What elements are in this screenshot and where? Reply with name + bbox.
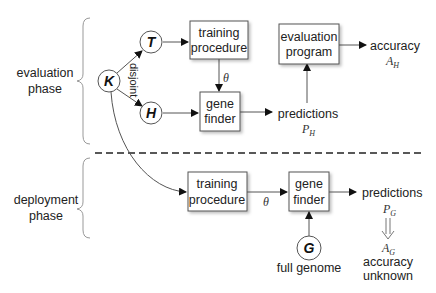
eval-accuracy-symbol: AH <box>385 54 400 70</box>
full-genome-label: full genome <box>277 261 342 275</box>
evaluation-program-line2: program <box>286 45 333 59</box>
node-g: G <box>297 236 321 260</box>
deploy-predictions-label: predictions <box>362 186 422 200</box>
eval-gene-finder-box: gene finder <box>200 92 240 131</box>
deploy-predictions: predictions PG <box>362 186 422 218</box>
evaluation-phase-label: evaluation phase <box>17 66 74 96</box>
deploy-gene-finder-box: gene finder <box>289 172 329 211</box>
node-h-label: H <box>146 105 157 121</box>
node-h: H <box>140 102 162 124</box>
deploy-predictions-symbol: PG <box>382 202 396 218</box>
deploy-genefinder-line1: gene <box>295 177 323 191</box>
evaluation-program-box: evaluation program <box>279 24 339 64</box>
deployment-phase-line1: deployment <box>14 193 79 207</box>
disjoint-label: disjoint <box>128 63 140 97</box>
deploy-training-line2: procedure <box>189 193 245 207</box>
theta-bottom-label: θ <box>263 195 269 209</box>
implies-arrow-icon <box>382 218 394 239</box>
deploy-training-procedure-box: training procedure <box>188 172 247 211</box>
deploy-accuracy-line1: accuracy <box>363 255 414 269</box>
eval-predictions: predictions PH <box>278 107 338 138</box>
node-k: K <box>98 70 120 92</box>
deploy-accuracy: AG accuracy unknown <box>363 241 414 283</box>
eval-accuracy-label: accuracy <box>370 39 421 53</box>
deployment-brace <box>77 158 90 238</box>
eval-predictions-symbol: PH <box>301 122 316 138</box>
eval-training-procedure-box: training procedure <box>190 21 248 59</box>
deploy-accuracy-line2: unknown <box>363 269 413 283</box>
theta-top-label: θ <box>223 71 229 85</box>
evaluation-phase-line2: phase <box>28 82 62 96</box>
node-t: T <box>140 31 162 53</box>
eval-genefinder-line1: gene <box>206 97 234 111</box>
eval-predictions-label: predictions <box>278 107 338 121</box>
node-t-label: T <box>147 34 157 50</box>
evaluation-program-line1: evaluation <box>281 30 338 44</box>
deployment-phase-line2: phase <box>29 209 63 223</box>
eval-genefinder-line2: finder <box>204 112 235 126</box>
evaluation-brace <box>77 18 90 144</box>
deployment-phase-label: deployment phase <box>14 193 79 223</box>
eval-accuracy: accuracy AH <box>370 39 421 70</box>
node-k-label: K <box>104 73 115 89</box>
deploy-training-line1: training <box>197 177 238 191</box>
node-g-label: G <box>304 240 315 256</box>
eval-training-line1: training <box>199 26 240 40</box>
evaluation-phase-line1: evaluation <box>17 66 74 80</box>
deploy-genefinder-line2: finder <box>293 193 324 207</box>
diagram-canvas: evaluation phase deployment phase disjoi… <box>0 0 436 293</box>
eval-training-line2: procedure <box>191 41 247 55</box>
